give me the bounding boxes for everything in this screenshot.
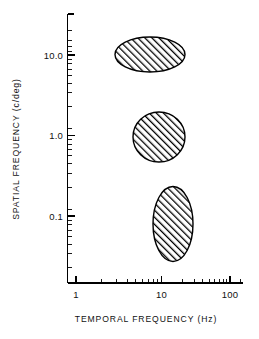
x-axis-title: TEMPORAL FREQUENCY (Hz) bbox=[75, 314, 217, 324]
spatiotemporal-frequency-chart: 10.0 1.0 0.1 1 10 100 SPATIAL FREQUENCY … bbox=[0, 0, 259, 339]
y-tick-label-10: 10.0 bbox=[44, 50, 63, 61]
y-tick-label-1: 1.0 bbox=[49, 130, 63, 141]
low-spatial-frequency-region[interactable] bbox=[153, 187, 193, 262]
mid-spatial-frequency-region[interactable] bbox=[133, 112, 185, 162]
y-tick-label-0.1: 0.1 bbox=[49, 211, 63, 222]
y-axis-tick-labels: 10.0 1.0 0.1 bbox=[44, 50, 63, 222]
x-axis-tick-labels: 1 10 100 bbox=[73, 289, 238, 300]
y-axis-title: SPATIAL FREQUENCY (c/deg) bbox=[11, 78, 21, 220]
x-axis-ticks bbox=[76, 276, 240, 283]
y-axis-ticks bbox=[68, 14, 76, 283]
high-spatial-frequency-region[interactable] bbox=[115, 37, 185, 72]
figure-container: 10.0 1.0 0.1 1 10 100 SPATIAL FREQUENCY … bbox=[0, 0, 259, 339]
data-regions bbox=[115, 37, 193, 262]
x-tick-label-1: 1 bbox=[73, 289, 78, 300]
x-tick-label-10: 10 bbox=[156, 289, 167, 300]
x-tick-label-100: 100 bbox=[222, 289, 238, 300]
